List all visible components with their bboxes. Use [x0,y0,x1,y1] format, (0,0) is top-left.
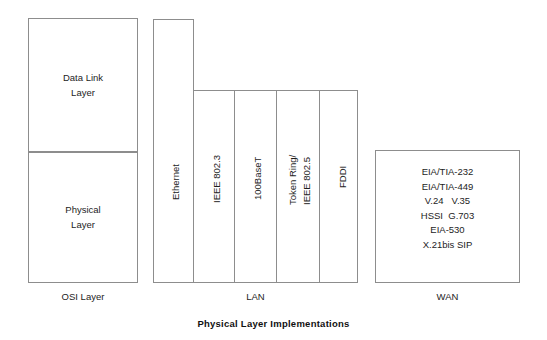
wan-protocol-list: EIA/TIA-232 EIA/TIA-449 V.24 V.35 HSSI G… [375,165,520,252]
wan-protocol-row: EIA/TIA-232 [375,165,520,180]
lan-100baset-label: 100BaseT [251,157,265,200]
figure-caption: Physical Layer Implementations [0,318,547,329]
wan-protocol-row: V.24 V.35 [375,194,520,209]
wan-protocol-row: EIA/TIA-449 [375,180,520,195]
wan-protocol-row: X.21bis SIP [375,238,520,253]
wan-protocol-row: HSSI G.703 [375,209,520,224]
wan-column-caption: WAN [375,290,520,303]
lan-token-ring-label: Token Ring/ IEEE 802.5 [286,155,314,205]
osi-physical-layer-label: Physical Layer [28,202,138,232]
lan-ethernet-label: Ethernet [169,164,183,200]
lan-column-caption: LAN [153,290,358,303]
physical-layer-implementations-diagram: Data Link Layer Physical Layer OSI Layer… [0,0,547,340]
wan-protocol-row: EIA-530 [375,223,520,238]
osi-data-link-layer-label: Data Link Layer [28,70,138,100]
osi-column-caption: OSI Layer [28,290,138,303]
lan-ethernet-box [153,19,194,283]
lan-fddi-label: FDDI [336,166,350,188]
lan-ieee-802-3-label: IEEE 802.3 [210,155,224,203]
